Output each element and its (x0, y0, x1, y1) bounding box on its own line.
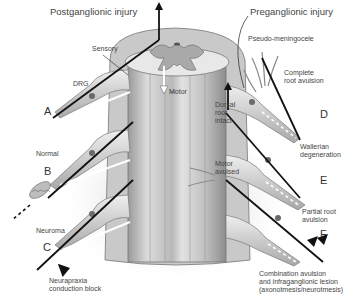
partial-root-avulsion-label: Partial root avulsion (302, 208, 336, 224)
pseudo-meningocele-label: Pseudo-meningocele (248, 35, 314, 43)
case-letter-a: A (44, 107, 51, 115)
drg-label: DRG (73, 80, 89, 88)
up-arrow-icon (155, 2, 163, 10)
normal-label: Normal (36, 150, 59, 158)
postganglionic-heading: Postganglionic injury (50, 8, 137, 16)
case-letter-d: D (320, 110, 328, 118)
neuroma-label: Neuroma (36, 227, 65, 235)
motor-label: Motor (169, 88, 187, 96)
case-letter-c: C (43, 243, 51, 251)
case-letter-b: B (44, 167, 51, 175)
case-letter-f: F (320, 230, 327, 238)
dorsal-root-intact-label: Dorsal root intact (215, 101, 235, 125)
sensory-label: Sensory (92, 45, 118, 53)
combination-avulsion-label: Combination avulsion and infraganglionic… (259, 270, 343, 294)
motor-avulsed-label: Motor avulsed (215, 160, 239, 176)
case-letter-e: E (320, 176, 327, 184)
wallerian-degeneration-label: Wallerian degeneration (300, 143, 341, 159)
preganglionic-heading: Preganglionic injury (250, 8, 333, 16)
neurapraxia-label: Neurapraxia conduction block (49, 277, 101, 293)
complete-root-avulsion-label: Complete root avulsion (284, 69, 324, 85)
